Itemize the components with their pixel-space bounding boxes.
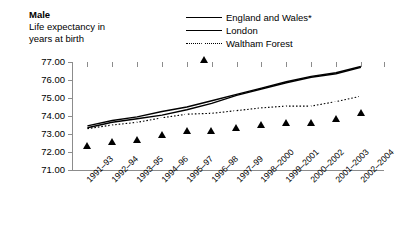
legend-label-london: London xyxy=(222,24,258,37)
legend-label-waltham-forest: Waltham Forest xyxy=(222,37,293,50)
data-point xyxy=(108,121,116,139)
y-axis-label: 77.00 xyxy=(25,57,65,67)
data-point xyxy=(307,102,315,120)
data-point xyxy=(83,125,91,143)
legend-line-solid xyxy=(186,17,222,18)
plot-area: 71.0072.0073.0074.0075.0076.0077.00 1991… xyxy=(72,62,384,170)
legend-item-london: London xyxy=(186,24,312,37)
data-point xyxy=(207,110,215,128)
data-point xyxy=(332,98,340,116)
x-tick xyxy=(384,62,385,67)
chart-heading: Male Life expectancy in years at birth xyxy=(29,9,105,45)
data-point xyxy=(357,92,365,110)
legend-item-england-and-wales: England and Wales* xyxy=(186,11,312,24)
legend-sample-england-and-wales xyxy=(186,11,222,24)
legend-item-waltham-forest: Waltham Forest xyxy=(186,37,312,50)
legend-label-england-and-wales: England and Wales* xyxy=(222,11,312,24)
data-point xyxy=(282,102,290,120)
y-axis-label: 72.00 xyxy=(25,147,65,157)
chart-legend: England and Wales* London Waltham Forest xyxy=(186,11,312,50)
data-point xyxy=(232,107,240,125)
data-point xyxy=(133,119,141,137)
y-axis-label: 76.00 xyxy=(25,75,65,85)
chart-subtitle-line1: Life expectancy in xyxy=(29,21,105,33)
legend-line-solid xyxy=(186,30,222,31)
y-axis-label: 75.00 xyxy=(25,93,65,103)
series-line xyxy=(87,96,360,128)
y-axis-label: 71.00 xyxy=(25,165,65,175)
legend-sample-waltham-forest xyxy=(186,37,222,50)
legend-sample-london xyxy=(186,24,222,37)
chart-title: Male xyxy=(29,9,105,21)
data-point xyxy=(183,110,191,128)
chart-subtitle-line2: years at birth xyxy=(29,33,105,45)
y-tick xyxy=(68,170,72,171)
y-axis-label: 73.00 xyxy=(25,129,65,139)
life-expectancy-chart: Male Life expectancy in years at birth E… xyxy=(0,0,401,237)
data-point xyxy=(158,114,166,132)
y-axis-label: 74.00 xyxy=(25,111,65,121)
data-point xyxy=(257,104,265,122)
open-triangle-icon xyxy=(200,39,208,57)
